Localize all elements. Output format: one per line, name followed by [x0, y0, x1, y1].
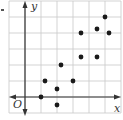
- data-point: [79, 31, 84, 36]
- origin-label: O: [13, 99, 22, 110]
- data-point: [39, 95, 44, 100]
- data-points: [39, 15, 112, 108]
- data-point: [103, 15, 108, 20]
- y-axis-arrow-up-icon: [23, 1, 28, 8]
- data-point: [107, 31, 112, 36]
- x-axis-arrow-right-icon: [114, 95, 121, 100]
- data-point: [55, 103, 60, 108]
- x-axis-label: x: [114, 103, 120, 114]
- data-point: [43, 79, 48, 84]
- data-point: [59, 63, 64, 68]
- data-point: [55, 87, 60, 92]
- data-point: [95, 27, 100, 32]
- y-axis-label: y: [31, 1, 37, 12]
- data-point: [95, 55, 100, 60]
- data-point: [71, 79, 76, 84]
- data-point: [79, 55, 84, 60]
- y-axis-arrow-down-icon: [23, 109, 28, 116]
